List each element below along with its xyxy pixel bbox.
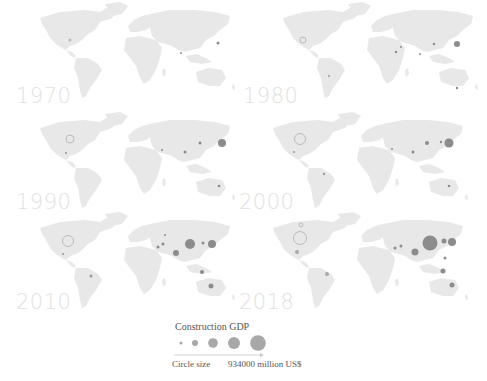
map-panel-1990: 1990 bbox=[0, 110, 243, 215]
map-panel-2010: 2010 bbox=[0, 210, 243, 315]
map-panel-1970: 1970 bbox=[0, 0, 243, 105]
map-panel-2018: 2018 bbox=[243, 210, 486, 315]
year-label: 1970 bbox=[16, 84, 71, 108]
legend-title: Construction GDP bbox=[175, 321, 249, 332]
size-legend: Construction GDP Circle size 934000 mill… bbox=[172, 321, 332, 371]
year-label: 2010 bbox=[16, 290, 71, 314]
year-label: 1980 bbox=[243, 84, 298, 108]
map-panel-2000: 2000 bbox=[243, 110, 486, 215]
map-panel-1980: 1980 bbox=[243, 0, 486, 105]
arrow-head-icon bbox=[260, 353, 264, 357]
legend-circles bbox=[172, 333, 282, 359]
legend-min-label: Circle size bbox=[172, 359, 210, 369]
legend-max-label: 934000 million US$ bbox=[228, 359, 302, 369]
year-label: 2018 bbox=[239, 290, 294, 314]
